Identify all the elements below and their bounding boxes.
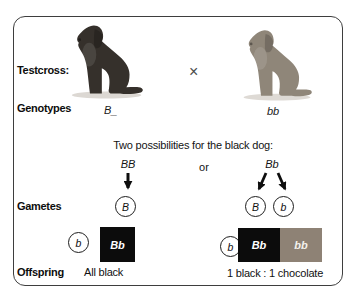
left-parent-genotype: B_ [104,104,117,116]
case2-offspring-caption: 1 black : 1 chocolate [227,267,323,279]
case2-gamete-letter-b: b [281,201,287,213]
black-dog-icon [64,23,146,99]
case2-offspring-genotype-black: Bb [252,239,267,251]
case2-offspring-cells: Bb bb [238,228,322,262]
chocolate-dog-illustration [236,28,315,105]
offspring-label: Offspring [17,266,64,278]
diverging-arrows-icon [246,171,296,199]
case1-tester-gamete-letter: b [76,237,82,249]
gametes-label: Gametes [17,200,61,212]
testcross-label: Testcross: [17,64,69,76]
case2-tester-gamete-letter: b [228,241,234,253]
case2-gamete-circle-b: b [273,196,294,217]
case2-offspring-cell-black: Bb [238,228,280,262]
right-parent-genotype: bb [267,105,279,117]
down-arrow-icon [119,171,137,199]
cross-symbol: × [189,63,198,81]
or-label: or [192,161,216,173]
case1-gamete-circle: B [115,196,136,217]
case1-tester-gamete-circle: b [68,232,89,253]
possibilities-heading: Two possibilities for the black dog: [93,139,293,151]
case1-offspring-genotype: Bb [110,239,125,251]
chocolate-dog-icon [236,28,315,101]
genotypes-label: Genotypes [17,102,71,114]
case1-offspring-caption: All black [84,266,123,278]
case1-gamete-letter: B [122,201,129,213]
case2-offspring-cell-chocolate: bb [280,228,322,262]
case1-genotype: BB [116,158,140,170]
case1-offspring-cell: Bb [100,227,135,262]
case2-offspring-genotype-chocolate: bb [294,239,307,251]
black-dog-illustration [64,23,146,103]
case2-genotype: Bb [260,158,284,170]
case2-gamete-letter-B: B [252,201,259,213]
case2-gamete-circle-B: B [245,196,266,217]
testcross-figure: Testcross: Genotypes Gametes Offspring ×… [0,0,352,296]
